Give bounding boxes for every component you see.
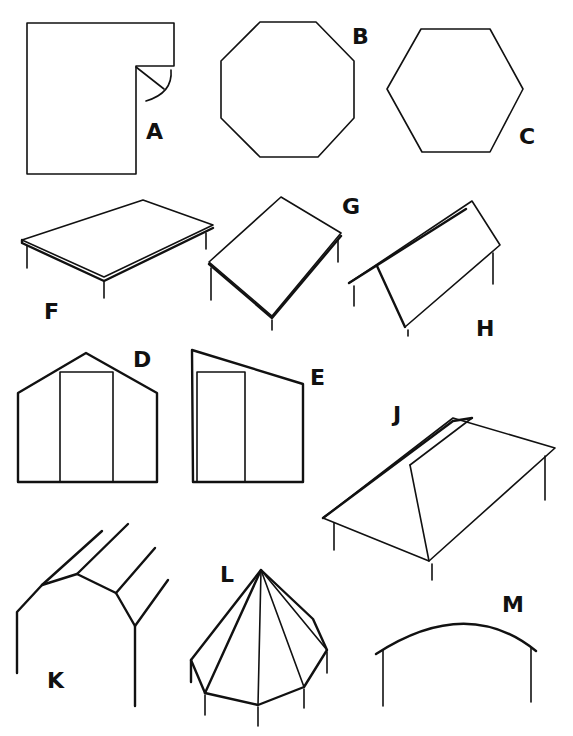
label-a: A xyxy=(146,121,163,143)
label-b: B xyxy=(352,26,369,48)
figure-e-lean-to-elevation xyxy=(192,350,303,482)
figure-c-hexagon xyxy=(387,29,523,152)
roof-types-diagram xyxy=(0,0,573,736)
door-leaf xyxy=(136,67,164,89)
figure-g-lean-to-roof xyxy=(209,197,341,330)
figure-l-pyramid-roof xyxy=(191,570,327,726)
label-j: J xyxy=(393,404,401,426)
figure-j-hipped-roof xyxy=(323,418,555,580)
figure-b-octagon xyxy=(221,22,354,157)
label-l: L xyxy=(220,564,234,586)
figure-f-flat-roof xyxy=(22,200,213,298)
figure-d-gable-elevation xyxy=(18,353,157,482)
label-k: K xyxy=(47,670,64,692)
label-f: F xyxy=(44,301,59,323)
label-h: H xyxy=(476,318,494,340)
label-e: E xyxy=(310,367,325,389)
figure-k-gambrel-roof xyxy=(17,524,168,706)
figure-m-curved-roof xyxy=(376,624,536,706)
label-g: G xyxy=(342,196,360,218)
figure-a-l-plan xyxy=(27,23,174,174)
label-d: D xyxy=(133,349,151,371)
label-m: M xyxy=(502,594,524,616)
label-c: C xyxy=(519,126,535,148)
